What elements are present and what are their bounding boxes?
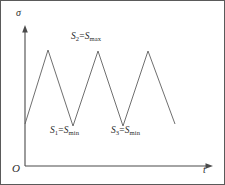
x-axis-label: t <box>203 165 206 175</box>
peak-lead-sub: 2 <box>76 35 79 42</box>
valley2-tail-var: S <box>125 125 130 135</box>
peak-annotation-label: S2=Smax <box>71 32 101 42</box>
peak-tail-sub: max <box>90 35 102 42</box>
valley1-lead-sub: 1 <box>55 129 58 136</box>
valley1-tail-sub: min <box>69 129 80 136</box>
y-axis-label: σ <box>16 8 21 18</box>
stress-time-figure: σ O t S2=Smax S1=Smin S3=Smin <box>0 0 225 185</box>
y-axis <box>22 25 28 166</box>
valley-annotation-label-1: S1=Smin <box>50 126 79 136</box>
peak-tail-var: S <box>85 31 90 41</box>
origin-label: O <box>12 163 20 174</box>
valley1-tail-var: S <box>64 125 69 135</box>
stress-waveform <box>25 50 175 126</box>
x-axis <box>25 163 213 169</box>
valley2-tail-sub: min <box>130 129 141 136</box>
valley-annotation-label-2: S3=Smin <box>111 126 140 136</box>
plot-canvas <box>0 0 225 185</box>
valley2-lead-sub: 3 <box>116 129 119 136</box>
